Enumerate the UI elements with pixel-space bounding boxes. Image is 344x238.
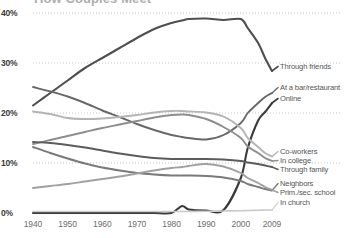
series-lines-group xyxy=(33,18,272,213)
series-label-co-workers: Co-workers xyxy=(280,148,317,156)
y-axis-tick-label: 0% xyxy=(1,208,13,218)
series-label-through-family: Through family xyxy=(280,166,328,174)
series-line-through-friends xyxy=(33,18,272,105)
leader-line xyxy=(272,152,278,157)
series-label-in-college: In college xyxy=(280,157,311,165)
series-label-prim-sec-school: Prim./sec. school xyxy=(280,189,335,197)
leader-line xyxy=(272,88,278,94)
x-axis-tick-label: 2009 xyxy=(252,219,292,229)
leader-line xyxy=(272,167,278,170)
series-line-in-church xyxy=(33,210,272,212)
series-line-in-college xyxy=(33,114,272,161)
y-axis-tick-label: 40% xyxy=(1,8,17,18)
leader-line xyxy=(272,99,278,104)
leader-line xyxy=(272,203,278,211)
leader-line xyxy=(272,67,278,72)
chart-container: How Couples Meet 0%10%20%30%40% 19401950… xyxy=(0,0,344,238)
series-line-prim-sec-school xyxy=(33,164,272,190)
y-axis-tick-label: 20% xyxy=(1,108,17,118)
leader-line xyxy=(272,190,278,193)
y-axis-tick-label: 10% xyxy=(1,158,17,168)
series-label-neighbors: Neighbors xyxy=(280,180,313,188)
series-label-online: Online xyxy=(280,95,301,103)
series-label-in-church: In church xyxy=(280,199,310,207)
label-leader-lines-group xyxy=(272,67,278,211)
series-label-at-a-bar-restaurant: At a bar/restaurant xyxy=(280,84,340,92)
y-axis-tick-label: 30% xyxy=(1,58,17,68)
leader-line xyxy=(272,161,278,162)
series-label-through-friends: Through friends xyxy=(280,63,331,71)
series-line-through-family xyxy=(33,142,272,167)
leader-line xyxy=(272,184,278,191)
